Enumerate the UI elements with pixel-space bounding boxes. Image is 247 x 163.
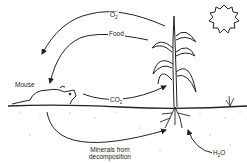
o2-arrow [42,12,165,54]
h2o-label: H2O [212,150,226,159]
cycle-diagram [0,0,247,163]
co2-label: CO2 [109,97,123,106]
minerals-arrow [47,112,166,142]
roots-icon [160,107,190,128]
corn-plant-icon [152,16,196,107]
soil-texture [19,111,240,150]
small-plant-icon [226,96,234,106]
mouse-label: Mouse [14,82,36,89]
ground-line [8,105,247,108]
o2-label: O2 [109,12,119,21]
food-arrow [50,34,148,83]
food-label: Food [108,31,125,38]
minerals-label: Minerals from decomposition [88,147,132,160]
sun-icon [209,5,239,33]
co2-arrow [83,86,166,99]
mouse-icon [12,86,76,104]
h2o-arrow [188,130,213,153]
